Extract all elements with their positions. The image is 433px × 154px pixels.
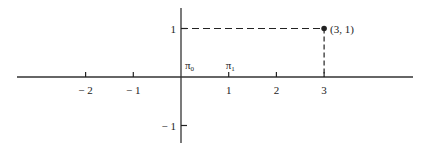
axis-label-pi1: π1 (226, 59, 236, 73)
x-tick-label: 2 (274, 84, 280, 96)
x-tick-label: 3 (321, 84, 327, 96)
x-tick-label: − 1 (126, 84, 140, 96)
y-tick-label: − 1 (162, 120, 176, 132)
x-tick-label: 1 (226, 84, 232, 96)
axis-label-pi0: π0 (185, 59, 195, 73)
data-point (321, 26, 327, 32)
coordinate-diagram: − 2− 11231− 1π0π1(3, 1) (0, 0, 433, 154)
point-label: (3, 1) (330, 23, 354, 36)
x-tick-label: − 2 (78, 84, 92, 96)
y-tick-label: 1 (171, 23, 177, 35)
